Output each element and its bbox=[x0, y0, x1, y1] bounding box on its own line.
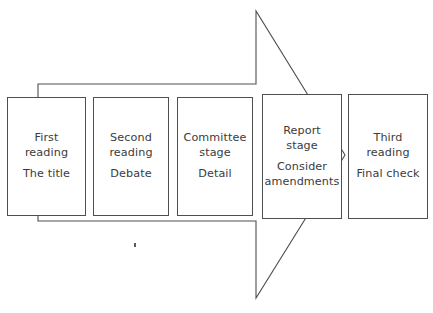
stage-box-first-reading[interactable]: First reading The title bbox=[7, 97, 86, 216]
stage-subtitle: Debate bbox=[110, 167, 151, 182]
stage-box-third-reading[interactable]: Third reading Final check bbox=[348, 94, 428, 219]
stage-subtitle: Final check bbox=[356, 167, 419, 182]
stray-mark bbox=[134, 243, 136, 247]
stage-title: Report stage bbox=[283, 124, 321, 153]
process-flow-diagram: First reading The title Second reading D… bbox=[0, 0, 433, 313]
stage-title: Third reading bbox=[366, 131, 409, 160]
stage-box-committee-stage[interactable]: Committee stage Detail bbox=[177, 97, 253, 216]
stage-title: Committee stage bbox=[184, 131, 247, 160]
stage-title: First reading bbox=[25, 131, 68, 160]
stage-box-second-reading[interactable]: Second reading Debate bbox=[93, 97, 169, 216]
stage-subtitle: The title bbox=[23, 167, 70, 182]
stage-title: Second reading bbox=[109, 131, 152, 160]
stage-subtitle: Detail bbox=[198, 167, 232, 182]
stage-subtitle: Consider amendments bbox=[265, 160, 340, 189]
stage-box-report-stage[interactable]: Report stage Consider amendments bbox=[262, 94, 342, 219]
